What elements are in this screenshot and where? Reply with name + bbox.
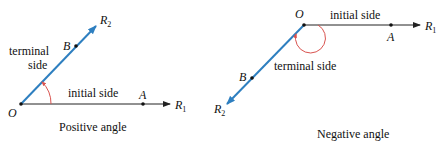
negative-terminal-side-label: terminal side (274, 60, 336, 72)
positive-point-b-label: B (63, 40, 70, 52)
positive-r2-subscript: 2 (107, 20, 111, 29)
positive-vertex-label: O (8, 107, 17, 119)
positive-angle-caption: Positive angle (59, 120, 127, 135)
negative-point-a (389, 23, 393, 27)
negative-r2-subscript: 2 (221, 109, 225, 118)
negative-r1-subscript: 1 (432, 26, 436, 35)
negative-vertex-label: O (295, 8, 304, 20)
positive-terminal-side-label-line1: terminal (9, 45, 49, 57)
positive-r1-subscript: 1 (182, 105, 186, 114)
positive-point-b (74, 44, 78, 48)
negative-r2-label: R2 (214, 103, 225, 120)
positive-vertex-point (19, 102, 23, 106)
positive-r1-label: R1 (175, 99, 186, 116)
positive-initial-side-label: initial side (68, 87, 118, 99)
negative-angle-caption: Negative angle (317, 127, 389, 142)
negative-point-b-label: B (239, 71, 246, 83)
negative-initial-side-label: initial side (330, 9, 380, 21)
positive-point-a (141, 102, 145, 106)
negative-r1-label: R1 (425, 20, 436, 37)
positive-point-a-label: A (139, 89, 146, 101)
positive-terminal-side-label-line2: side (28, 59, 47, 71)
positive-r2-label: R2 (100, 14, 111, 31)
negative-vertex-point (302, 23, 306, 27)
negative-point-b (250, 76, 254, 80)
positive-angle-arc (42, 82, 51, 104)
negative-point-a-label: A (387, 31, 394, 43)
